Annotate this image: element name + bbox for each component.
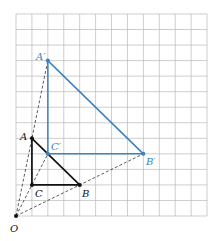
point-a-prime [46, 59, 50, 63]
label-b: B [81, 188, 89, 199]
point-b [78, 183, 82, 187]
point-o [14, 214, 18, 218]
label-b-prime: B′ [145, 156, 156, 167]
label-a-prime: A′ [35, 51, 46, 62]
point-b-prime [141, 152, 145, 156]
point-a [30, 136, 34, 140]
label-a: A [19, 131, 27, 142]
label-c: C [35, 188, 43, 199]
label-c-prime: C′ [51, 141, 62, 152]
dilation-diagram: O A B C A′ B′ C′ [0, 0, 216, 241]
label-o: O [10, 223, 18, 234]
point-c [30, 183, 34, 187]
point-c-prime [46, 152, 50, 156]
